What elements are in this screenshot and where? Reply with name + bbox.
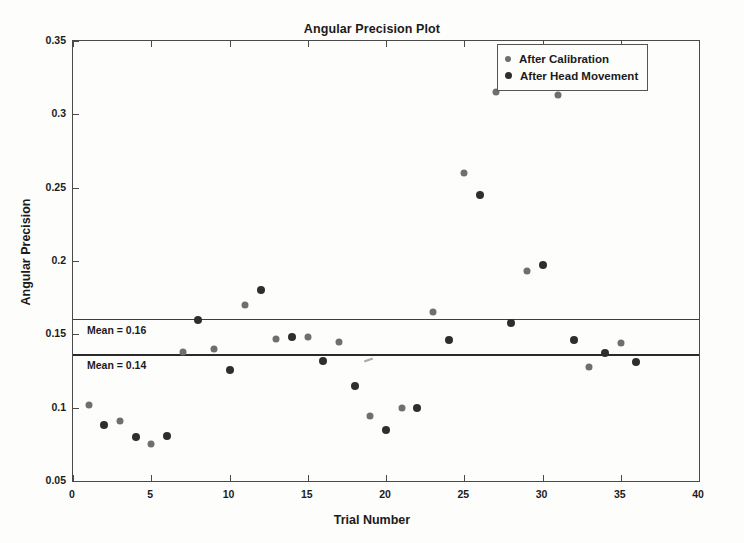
data-point	[429, 309, 436, 316]
x-tick-mark-top	[464, 41, 465, 47]
data-point	[210, 346, 217, 353]
mean-reference-line	[73, 319, 699, 320]
data-point	[100, 421, 108, 429]
data-point	[523, 268, 530, 275]
legend-marker-icon	[505, 72, 512, 79]
x-tick-mark	[464, 475, 465, 481]
x-tick-mark	[699, 475, 700, 481]
data-point	[445, 336, 453, 344]
data-point	[507, 319, 515, 327]
x-tick-mark	[151, 475, 152, 481]
x-tick-mark	[73, 475, 74, 481]
y-tick-mark	[73, 261, 79, 262]
plot-area: Mean = 0.16Mean = 0.14	[72, 40, 700, 482]
data-point	[304, 334, 311, 341]
x-tick-label: 0	[52, 488, 92, 500]
chart-figure: Angular Precision Plot Angular Precision…	[0, 0, 744, 543]
legend-marker-icon	[505, 56, 511, 62]
mean-line-label: Mean = 0.14	[87, 359, 146, 371]
data-point	[413, 404, 421, 412]
data-point	[242, 302, 249, 309]
data-point	[226, 366, 234, 374]
data-point	[461, 170, 468, 177]
data-point	[163, 432, 171, 440]
legend-label: After Calibration	[519, 53, 609, 65]
chart-title: Angular Precision Plot	[0, 22, 744, 36]
x-tick-mark	[386, 475, 387, 481]
x-tick-label: 15	[287, 488, 327, 500]
legend-item-after-head-movement: After Head Movement	[505, 67, 638, 84]
data-point	[601, 349, 609, 357]
y-tick-label: 0.3	[0, 107, 66, 119]
y-tick-mark	[73, 408, 79, 409]
data-point	[632, 358, 640, 366]
data-point	[617, 340, 624, 347]
data-point	[351, 382, 359, 390]
data-point	[398, 404, 405, 411]
y-tick-label: 0.15	[0, 327, 66, 339]
x-tick-label: 20	[365, 488, 405, 500]
data-point	[85, 401, 92, 408]
legend-item-after-calibration: After Calibration	[505, 50, 638, 67]
x-tick-mark	[308, 475, 309, 481]
data-point	[179, 348, 186, 355]
y-tick-label: 0.05	[0, 474, 66, 486]
data-point	[586, 363, 593, 370]
data-point	[319, 357, 327, 365]
data-point	[367, 413, 374, 420]
x-tick-mark-top	[386, 41, 387, 47]
x-axis-label: Trial Number	[0, 513, 744, 527]
data-point	[288, 333, 296, 341]
data-point	[194, 316, 202, 324]
y-tick-mark	[73, 481, 79, 482]
data-point	[555, 92, 562, 99]
x-tick-label: 10	[209, 488, 249, 500]
legend-label: After Head Movement	[520, 70, 638, 82]
x-tick-label: 30	[522, 488, 562, 500]
y-tick-mark	[73, 114, 79, 115]
y-tick-label: 0.35	[0, 34, 66, 46]
data-point	[539, 261, 547, 269]
x-tick-mark-top	[230, 41, 231, 47]
data-point	[132, 433, 140, 441]
x-tick-mark	[621, 475, 622, 481]
data-point	[148, 441, 155, 448]
x-tick-mark-top	[151, 41, 152, 47]
mean-line-label: Mean = 0.16	[87, 324, 146, 336]
x-tick-mark-top	[308, 41, 309, 47]
data-point	[570, 336, 578, 344]
x-tick-label: 25	[443, 488, 483, 500]
data-point	[476, 191, 484, 199]
data-point	[382, 426, 390, 434]
x-tick-mark-top	[699, 41, 700, 47]
data-point	[273, 335, 280, 342]
x-tick-mark	[230, 475, 231, 481]
y-tick-label: 0.1	[0, 401, 66, 413]
y-tick-label: 0.2	[0, 254, 66, 266]
y-tick-mark	[73, 334, 79, 335]
data-point	[257, 286, 265, 294]
plot-inner: Mean = 0.16Mean = 0.14	[73, 41, 699, 481]
data-point	[116, 417, 123, 424]
x-tick-label: 40	[678, 488, 718, 500]
x-tick-mark	[543, 475, 544, 481]
y-tick-label: 0.25	[0, 181, 66, 193]
scan-artifact	[364, 357, 373, 362]
x-tick-mark-top	[73, 41, 74, 47]
data-point	[336, 338, 343, 345]
y-tick-mark	[73, 188, 79, 189]
chart-legend: After Calibration After Head Movement	[497, 44, 648, 91]
x-tick-label: 35	[600, 488, 640, 500]
x-tick-label: 5	[130, 488, 170, 500]
